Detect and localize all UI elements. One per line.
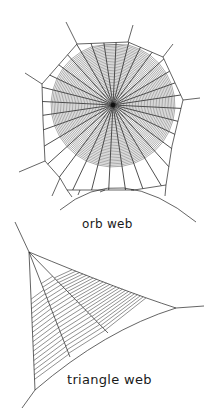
orb-web-label: orb web [82,217,133,231]
triangle-web-label: triangle web [67,372,152,387]
web-diagram [0,0,217,413]
orb-web-drawing [19,22,200,222]
